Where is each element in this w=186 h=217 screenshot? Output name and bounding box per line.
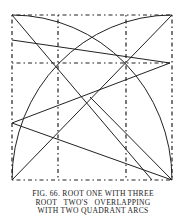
geometric-diagram	[0, 0, 186, 190]
caption-line-3: WITH TWO QUADRANT ARCS	[0, 207, 186, 216]
line-f	[90, 97, 172, 180]
figure-caption: FIG. 66. ROOT ONE WITH THREE ROOT TWO'S …	[0, 190, 186, 216]
line-e	[12, 123, 172, 180]
line-b	[12, 40, 170, 63]
figure: FIG. 66. ROOT ONE WITH THREE ROOT TWO'S …	[0, 0, 186, 217]
